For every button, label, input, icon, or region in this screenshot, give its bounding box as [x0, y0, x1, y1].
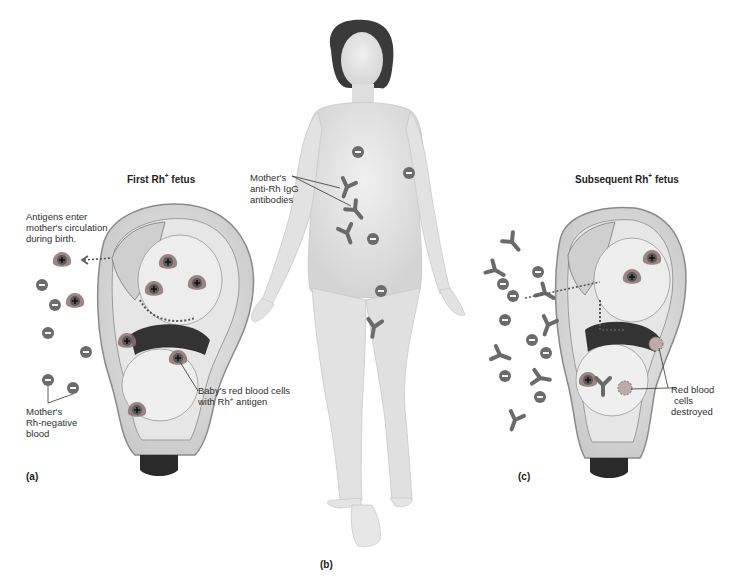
label-antigens-enter: Antigens enter mother's circulation duri…	[26, 211, 108, 244]
panel-c-letter: (c)	[518, 471, 530, 482]
panel-a-letter: (a)	[26, 471, 38, 482]
label-red-blood-cells-destroyed: Red blood cells destroyed	[671, 384, 714, 417]
panel-c-title: Subsequent Rh+ fetus	[575, 174, 679, 185]
label-baby-red-blood-cells: Baby's red blood cells with Rh+ antigen	[198, 385, 290, 407]
panel-a-title: First Rh+ fetus	[127, 174, 195, 185]
diagram-artwork	[0, 0, 734, 584]
panel-b-letter: (b)	[320, 559, 333, 570]
panel-b-mother-figure	[251, 20, 465, 547]
label-anti-rh-antibodies: Mother's anti-Rh IgG antibodies	[250, 172, 299, 205]
label-mother-rh-negative: Mother's Rh-negative blood	[26, 406, 77, 439]
panel-a-uterus	[98, 204, 254, 476]
panel-c-uterus	[556, 207, 686, 478]
